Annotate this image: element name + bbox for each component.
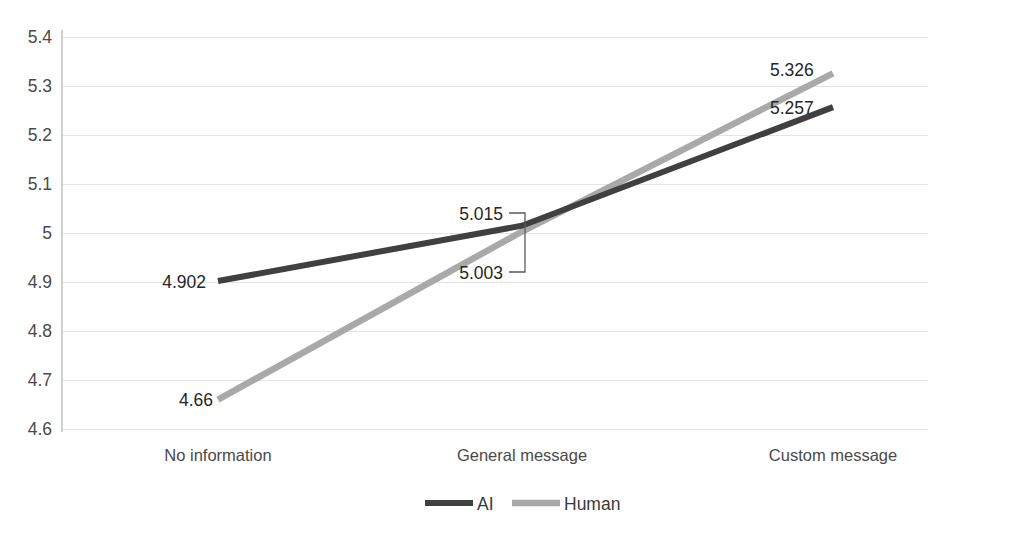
y-axis-tick-labels: 5.4 5.3 5.2 5.1 5 4.9 4.8 4.7 4.6 bbox=[28, 27, 53, 439]
data-label-human-right: 5.326 bbox=[770, 60, 814, 80]
y-tick-label: 4.8 bbox=[28, 321, 52, 341]
x-axis-category-labels: No information General message Custom me… bbox=[164, 446, 897, 464]
data-label-human-left: 4.66 bbox=[179, 390, 213, 410]
legend-label-human: Human bbox=[564, 494, 620, 514]
midpoint-bracket bbox=[509, 213, 525, 272]
y-tick-label: 5.3 bbox=[28, 76, 52, 96]
legend-label-ai: AI bbox=[477, 494, 494, 514]
data-label-human-mid: 5.003 bbox=[459, 263, 503, 283]
x-category-label: No information bbox=[164, 446, 271, 464]
chart-legend: AI Human bbox=[425, 494, 620, 514]
data-label-ai-right: 5.257 bbox=[770, 98, 814, 118]
y-tick-label: 5 bbox=[42, 223, 52, 243]
legend-item-ai[interactable]: AI bbox=[425, 494, 494, 514]
data-label-ai-left: 4.902 bbox=[162, 272, 206, 292]
y-tick-label: 5.2 bbox=[28, 125, 52, 145]
line-chart: 5.4 5.3 5.2 5.1 5 4.9 4.8 4.7 4.6 4.902 … bbox=[0, 0, 1009, 535]
y-tick-label: 5.1 bbox=[28, 174, 52, 194]
chart-canvas: 5.4 5.3 5.2 5.1 5 4.9 4.8 4.7 4.6 4.902 … bbox=[0, 0, 1009, 535]
legend-item-human[interactable]: Human bbox=[512, 494, 620, 514]
y-tick-label: 4.6 bbox=[28, 419, 52, 439]
data-label-ai-mid: 5.015 bbox=[459, 204, 503, 224]
y-tick-label: 4.9 bbox=[28, 272, 52, 292]
bracket-path bbox=[509, 213, 525, 272]
y-tick-label: 5.4 bbox=[28, 27, 53, 47]
x-category-label: General message bbox=[457, 446, 587, 464]
y-tick-label: 4.7 bbox=[28, 370, 52, 390]
x-category-label: Custom message bbox=[769, 446, 897, 464]
data-labels: 4.902 4.66 5.015 5.003 5.326 5.257 bbox=[162, 60, 814, 410]
